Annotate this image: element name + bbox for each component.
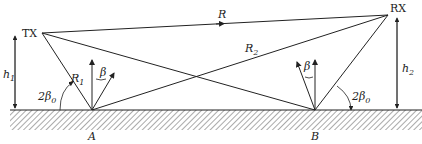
direct-path [42,15,388,33]
h1-label: h1 [3,68,15,83]
angle-arc-left [60,82,73,110]
angle-arc-right [337,86,351,110]
reflected-path-b [42,15,388,110]
beta-label-b: β [303,60,310,73]
reflected-path-a [42,15,388,110]
two-ray-diagram: TX RX A B R R1 R2 h1 h2 β β 2β0 2β0 [0,0,422,144]
two-beta0-left-label: 2β0 [37,90,56,105]
point-a-label: A [87,130,96,143]
r2-label: R2 [244,42,258,57]
beta-label-a: β [99,66,106,79]
rx-label: RX [390,2,406,15]
h2-label: h2 [402,62,414,77]
r1-label: R1 [70,72,84,87]
tx-label: TX [22,27,37,40]
ground [10,110,422,130]
point-b-label: B [310,130,319,143]
two-beta0-right-label: 2β0 [351,90,370,105]
direct-path-label: R [217,8,226,21]
